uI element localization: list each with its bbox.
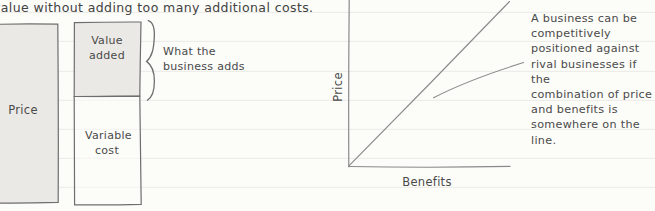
variable-cost-label: Variable cost [85, 128, 129, 158]
annotation-leader-line [434, 63, 524, 98]
page-caption: value without adding too many additional… [0, 0, 313, 15]
annotation-line: A business can be [531, 11, 655, 26]
chart-annotation: A business can be competitively position… [531, 11, 655, 148]
y-axis [349, 0, 350, 167]
value-added-label: Value added [85, 33, 129, 63]
annotation-line: combination of price [531, 87, 655, 102]
brace-note-label: What the business adds [163, 44, 249, 74]
annotation-line: somewhere on the [531, 117, 655, 132]
annotation-line: line. [531, 133, 655, 148]
x-axis [349, 166, 510, 167]
x-axis-label: Benefits [392, 175, 462, 190]
annotation-line: positioned against [531, 41, 655, 56]
y-axis-label: Price [331, 62, 345, 112]
annotation-line: and benefits is [531, 102, 655, 117]
annotation-line: rival businesses if the [531, 57, 655, 87]
price-box-label: Price [0, 103, 58, 118]
annotation-line: competitively [531, 26, 655, 41]
price-benefits-line [349, 2, 509, 166]
brace [147, 21, 155, 101]
